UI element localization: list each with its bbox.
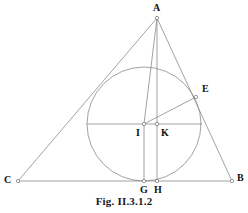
point-marker-G xyxy=(142,179,145,182)
geometry-canvas xyxy=(0,0,248,213)
point-marker-E xyxy=(194,95,197,98)
point-marker-K xyxy=(155,122,158,125)
vertex-label-K: K xyxy=(161,128,169,138)
vertex-label-I: I xyxy=(136,128,140,138)
geometry-figure: A B C E I K G H Fig. II.3.1.2 xyxy=(0,0,248,213)
side-AB-line xyxy=(157,18,232,181)
vertex-label-B: B xyxy=(237,173,244,183)
point-marker-C xyxy=(16,179,19,182)
vertex-label-A: A xyxy=(153,3,160,13)
radius-IE-line xyxy=(144,97,196,124)
side-CA-line xyxy=(18,18,157,181)
vertex-label-H: H xyxy=(154,185,162,195)
segment-AI-line xyxy=(144,18,157,124)
vertex-label-C: C xyxy=(4,175,11,185)
vertex-label-G: G xyxy=(140,185,148,195)
figure-caption: Fig. II.3.1.2 xyxy=(0,195,248,207)
point-marker-B xyxy=(230,179,233,182)
point-marker-I xyxy=(142,122,145,125)
vertex-label-E: E xyxy=(202,84,209,94)
point-marker-A xyxy=(155,16,158,19)
point-marker-H xyxy=(155,179,158,182)
